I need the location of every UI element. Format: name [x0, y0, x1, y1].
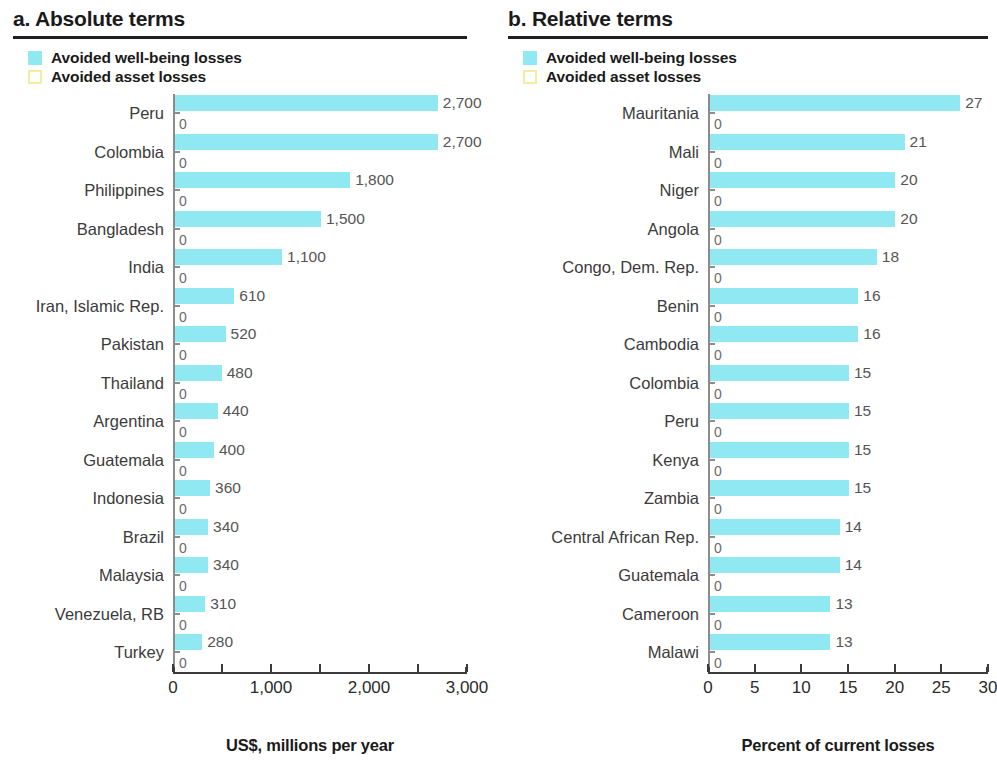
bar-value-label-zero: 0	[179, 655, 187, 671]
bar-group: 270	[708, 94, 988, 133]
axis-tick	[172, 664, 174, 672]
bar-fill-wellbeing	[710, 365, 849, 381]
bar-value-label: 1,500	[326, 210, 365, 228]
panel-a-axis-spacer	[13, 672, 173, 708]
bar-value-label: 16	[863, 325, 880, 343]
bar-fill-wellbeing	[710, 172, 895, 188]
chart-row: Indonesia3600	[13, 479, 467, 518]
axis-tick-label: 1,000	[250, 678, 293, 698]
bar-wellbeing: 15	[710, 365, 849, 381]
category-tick	[173, 189, 180, 191]
bar-fill-wellbeing	[710, 288, 858, 304]
bar-group: 140	[708, 518, 988, 557]
bar-value-label: 360	[215, 479, 241, 497]
chart-row: Central African Rep.140	[508, 518, 988, 557]
bar-value-label-zero: 0	[179, 309, 187, 325]
bar-value-label-zero: 0	[714, 424, 722, 440]
bar-value-label: 15	[854, 479, 871, 497]
category-label: Central African Rep.	[508, 518, 708, 557]
bar-group: 130	[708, 595, 988, 634]
bar-wellbeing: 15	[710, 480, 849, 496]
panel-b-rows: Mauritania270Mali210Niger200Angola200Con…	[508, 94, 988, 672]
axis-tick-label: 20	[885, 678, 904, 698]
bar-wellbeing: 18	[710, 249, 877, 265]
bar-fill-wellbeing	[710, 211, 895, 227]
bar-fill-wellbeing	[710, 596, 830, 612]
bar-wellbeing: 340	[175, 519, 208, 535]
bar-value-label: 18	[882, 248, 899, 266]
bar-fill-wellbeing	[175, 403, 218, 419]
chart-row: Peru2,7000	[13, 94, 467, 133]
chart-row: Kenya150	[508, 441, 988, 480]
bar-value-label: 340	[213, 556, 239, 574]
chart-row: Guatemala140	[508, 556, 988, 595]
bar-fill-wellbeing	[175, 288, 234, 304]
axis-tick-label: 3,000	[446, 678, 489, 698]
bar-value-label-zero: 0	[714, 193, 722, 209]
bar-fill-wellbeing	[175, 557, 208, 573]
panel-b-title: b. Relative terms	[508, 6, 988, 32]
bar-wellbeing: 440	[175, 403, 218, 419]
bar-wellbeing: 20	[710, 211, 895, 227]
panel-b-plot: Mauritania270Mali210Niger200Angola200Con…	[508, 94, 988, 755]
category-label: Niger	[508, 171, 708, 210]
chart-row: Thailand4800	[13, 364, 467, 403]
category-label: Guatemala	[13, 441, 173, 480]
bar-value-label: 14	[845, 518, 862, 536]
bar-wellbeing: 280	[175, 634, 202, 650]
panel-b-title-rule	[508, 36, 988, 39]
category-tick	[708, 112, 715, 114]
bar-fill-wellbeing	[175, 596, 205, 612]
category-label: Benin	[508, 287, 708, 326]
bar-value-label: 20	[900, 210, 917, 228]
bar-value-label: 15	[854, 441, 871, 459]
bar-value-label: 2,700	[443, 133, 482, 151]
bar-group: 4800	[173, 364, 467, 403]
bar-value-label-zero: 0	[179, 232, 187, 248]
axis-tick	[707, 664, 709, 672]
bar-group: 6100	[173, 287, 467, 326]
legend-item-asset: Avoided asset losses	[28, 67, 467, 86]
category-label: Mauritania	[508, 94, 708, 133]
bar-value-label: 1,100	[287, 248, 326, 266]
bar-wellbeing: 2,700	[175, 134, 438, 150]
category-tick	[708, 459, 715, 461]
category-label: Pakistan	[13, 325, 173, 364]
legend-label-wellbeing: Avoided well-being losses	[546, 49, 737, 67]
panel-b-legend: Avoided well-being losses Avoided asset …	[508, 48, 988, 86]
bar-value-label: 21	[910, 133, 927, 151]
category-label: Bangladesh	[13, 210, 173, 249]
chart-row: Guatemala4000	[13, 441, 467, 480]
axis-minor-tick	[417, 664, 419, 672]
chart-row: Philippines1,8000	[13, 171, 467, 210]
bar-value-label: 15	[854, 364, 871, 382]
chart-row: Benin160	[508, 287, 988, 326]
bar-group: 3400	[173, 556, 467, 595]
category-tick	[173, 497, 180, 499]
axis-tick	[270, 664, 272, 672]
category-label: Zambia	[508, 479, 708, 518]
bar-wellbeing: 310	[175, 596, 205, 612]
bar-group: 3400	[173, 518, 467, 557]
bar-value-label-zero: 0	[179, 578, 187, 594]
bar-value-label-zero: 0	[179, 155, 187, 171]
bar-group: 150	[708, 364, 988, 403]
bar-value-label-zero: 0	[179, 116, 187, 132]
bar-wellbeing: 2,700	[175, 95, 438, 111]
panel-a-axis-title: US$, millions per year	[13, 736, 467, 755]
bar-value-label-zero: 0	[179, 617, 187, 633]
bar-wellbeing: 520	[175, 326, 226, 342]
panel-a-rows: Peru2,7000Colombia2,7000Philippines1,800…	[13, 94, 467, 672]
panel-a-axis-line	[173, 672, 467, 674]
panel-b-axis-spacer	[508, 672, 708, 708]
chart-row: Iran, Islamic Rep.6100	[13, 287, 467, 326]
legend-item-asset: Avoided asset losses	[523, 67, 988, 86]
bar-group: 4400	[173, 402, 467, 441]
category-label: Congo, Dem. Rep.	[508, 248, 708, 287]
bar-wellbeing: 360	[175, 480, 210, 496]
panel-a-plot: Peru2,7000Colombia2,7000Philippines1,800…	[13, 94, 467, 755]
bar-value-label-zero: 0	[714, 501, 722, 517]
bar-wellbeing: 27	[710, 95, 960, 111]
bar-wellbeing: 14	[710, 557, 840, 573]
bar-value-label-zero: 0	[179, 540, 187, 556]
